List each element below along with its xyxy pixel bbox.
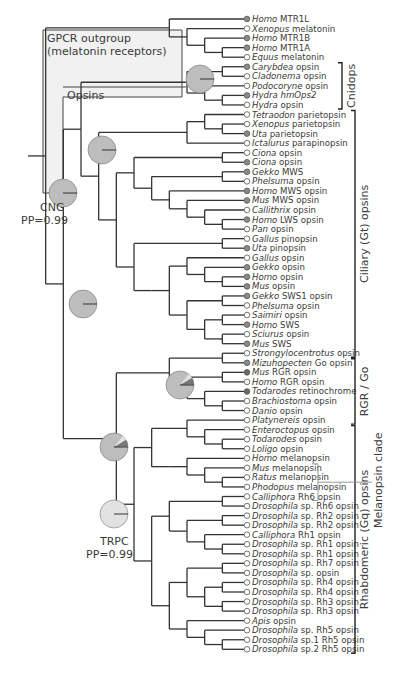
leaf-label: Homo MTR1B xyxy=(252,33,310,43)
leaf-label: Xenopus parietopsin xyxy=(251,119,340,129)
leaf-label: Calliphora Rh6 opsin xyxy=(252,492,341,502)
leaf-label: Drosophila sp. Rh1 opsin xyxy=(252,539,359,549)
leaf-label: Hydra opsin xyxy=(252,100,304,110)
leaf-marker-icon xyxy=(244,74,250,80)
leaf-marker-icon xyxy=(244,350,250,356)
leaf-label: Drosophila sp.1 Rh5 opsin xyxy=(252,635,364,645)
leaf-marker-icon xyxy=(244,150,250,156)
leaf-marker-icon xyxy=(244,647,250,653)
leaf-item: Ciona opsin xyxy=(244,157,302,167)
leaf-item: Mus opsin xyxy=(244,281,295,291)
leaf-marker-icon xyxy=(244,541,250,547)
leaf-marker-icon xyxy=(244,484,250,490)
leaf-marker-icon xyxy=(244,293,250,299)
clade-label-cnidops: Cnidops xyxy=(345,64,358,108)
leaf-label: Homo MTR1A xyxy=(252,43,310,53)
leaf-item: Drosophila sp. Rh2 opsin xyxy=(244,520,359,530)
leaf-marker-icon xyxy=(244,284,250,290)
leaf-label: Ciona opsin xyxy=(252,148,302,158)
leaf-label: Phodopus melanopsin xyxy=(252,482,347,492)
leaf-marker-icon xyxy=(244,503,250,509)
leaf-label: Drosophila sp. Rh2 opsin xyxy=(252,520,359,530)
leaf-label: Equus melatonin xyxy=(252,52,324,62)
leaf-label: Mizuhopecten Go opsin xyxy=(252,358,352,368)
leaf-label: Ictalurus parapinopsin xyxy=(252,138,348,148)
leaf-item: Homo MTR1A xyxy=(244,43,310,53)
leaf-label: Homo SWS xyxy=(252,320,300,330)
leaf-marker-icon xyxy=(244,188,250,194)
leaf-item: Xenopus parietopsin xyxy=(244,119,340,129)
clade-label-rgr_go: RGR / Go xyxy=(358,366,371,416)
leaf-item: Mizuhopecten Go opsin xyxy=(244,358,352,368)
gpcr-outgroup-label-line2: (melatonin receptors) xyxy=(47,45,167,58)
leaf-marker-icon xyxy=(244,599,250,605)
leaf-label: Drosophila sp. Rh1 opsin xyxy=(252,549,359,559)
leaf-item: Drosophila sp. Rh3 opsin xyxy=(244,606,359,616)
leaf-item: Saimiri opsin xyxy=(244,310,307,320)
leaf-label: Drosophila sp. Rh2 opsin xyxy=(252,511,359,521)
leaf-item: Danio opsin xyxy=(244,406,303,416)
leaf-marker-icon xyxy=(244,436,250,442)
leaf-marker-icon xyxy=(244,93,250,99)
leaf-marker-icon xyxy=(244,169,250,175)
leaf-marker-icon xyxy=(244,217,250,223)
leaf-marker-icon xyxy=(244,265,250,271)
leaf-marker-icon xyxy=(244,580,250,586)
leaf-marker-icon xyxy=(244,532,250,538)
leaf-item: Gekko SWS1 opsin xyxy=(244,291,332,301)
leaf-label: Drosophila sp. Rh4 opsin xyxy=(252,587,359,597)
clade-bracket-ciliary: Ciliary (Gt) opsins xyxy=(351,111,371,358)
leaf-marker-icon xyxy=(244,312,250,318)
leaf-marker-icon xyxy=(244,131,250,137)
leaf-item: Mus melanopsin xyxy=(244,463,322,473)
leaf-marker-icon xyxy=(244,446,250,452)
leaf-item: Homo RGR opsin xyxy=(244,377,324,387)
leaf-label: Gallus pinopsin xyxy=(252,234,318,244)
leaf-item: Gallus pinopsin xyxy=(244,234,317,244)
leaf-label: Uta parietopsin xyxy=(252,129,318,139)
leaf-label: Drosophila sp. Rh3 opsin xyxy=(252,606,359,616)
leaf-marker-icon xyxy=(244,112,250,118)
leaf-marker-icon xyxy=(244,475,250,481)
leaf-label: Uta pinopsin xyxy=(252,243,306,253)
leaf-marker-icon xyxy=(244,389,250,395)
trpc-node-label: TRPC xyxy=(99,535,129,548)
leaf-item: Sciurus opsin xyxy=(244,329,309,339)
leaf-label: Brachiostoma opsin xyxy=(252,396,337,406)
leaf-item: Uta parietopsin xyxy=(244,129,318,139)
leaf-item: Drosophila sp. Rh1 opsin xyxy=(244,539,359,549)
leaf-marker-icon xyxy=(244,608,250,614)
leaf-marker-icon xyxy=(244,198,250,204)
leaf-item: Todarodes retinochrome xyxy=(244,386,356,396)
leaf-label: Xenopus melatonin xyxy=(251,24,335,34)
leaf-marker-icon xyxy=(244,207,250,213)
clade-label-melanopsin: Melanopsin clade xyxy=(372,432,385,528)
leaf-item: Phodopus melanopsin xyxy=(244,482,346,492)
leaf-label: Sciurus opsin xyxy=(252,329,309,339)
leaf-label: Loligo opsin xyxy=(252,444,303,454)
leaf-item: Homo SWS xyxy=(244,320,299,330)
leaf-item: Callithrix opsin xyxy=(244,205,316,215)
leaf-label: Mus opsin xyxy=(252,281,295,291)
leaf-label: Podocoryne opsin xyxy=(252,81,328,91)
leaf-marker-icon xyxy=(244,83,250,89)
leaf-item: Homo melanopsin xyxy=(244,453,330,463)
leaf-item: Drosophila sp. Rh1 opsin xyxy=(244,549,359,559)
leaf-item: Drosophila sp. Rh4 opsin xyxy=(244,587,359,597)
leaf-label: Mus MWS opsin xyxy=(252,195,319,205)
leaf-label: Drosophila sp. Rh3 opsin xyxy=(252,597,359,607)
leaf-item: Enteroctopus opsin xyxy=(244,425,335,435)
leaf-item: Loligo opsin xyxy=(244,444,303,454)
leaf-marker-icon xyxy=(244,64,250,70)
leaf-label: Ratus melanopsin xyxy=(252,472,329,482)
leaf-item: Homo MWS opsin xyxy=(244,186,327,196)
leaf-label: Mus RGR opsin xyxy=(252,367,316,377)
leaf-label: Tetraodon parietopsin xyxy=(252,110,346,120)
leaf-label: Cladonema opsin xyxy=(252,71,327,81)
rgr-go-node-pie-icon xyxy=(166,371,194,399)
leaf-item: Gekko opsin xyxy=(244,262,305,272)
leaf-marker-icon xyxy=(244,121,250,127)
leaf-item: Mus SWS xyxy=(244,339,291,349)
leaf-marker-icon xyxy=(244,408,250,414)
leaf-marker-icon xyxy=(244,45,250,51)
